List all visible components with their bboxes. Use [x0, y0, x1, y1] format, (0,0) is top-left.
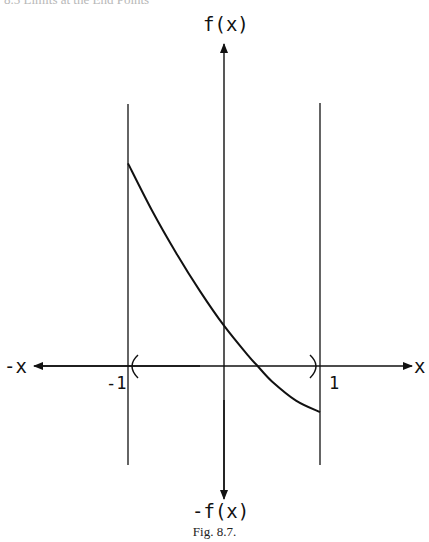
figure-caption: Fig. 8.7. — [0, 524, 429, 540]
y-axis-negative-label: -f(x) — [192, 500, 249, 522]
tick-label-left-bound: -1 — [106, 373, 126, 393]
tick-label-right-bound: 1 — [329, 373, 339, 393]
y-axis-label: f(x) — [203, 13, 249, 35]
x-axis-label: x — [414, 355, 425, 377]
function-diagram: f(x) -f(x) x -x -1 1 — [0, 0, 429, 542]
x-axis-negative-label: -x — [4, 355, 27, 377]
